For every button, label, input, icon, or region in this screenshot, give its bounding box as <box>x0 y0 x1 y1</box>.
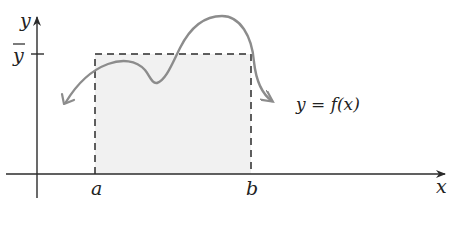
ybar-text: y <box>12 44 24 66</box>
b-label: b <box>246 177 258 199</box>
ybar-label: y <box>12 44 25 66</box>
curve-label: y = f(x) <box>295 94 360 114</box>
average-value-rectangle <box>95 54 251 174</box>
a-label: a <box>91 177 102 199</box>
x-axis-label: x <box>436 175 447 197</box>
y-axis-label: y <box>19 9 31 31</box>
average-value-diagram: y y y = f(x) a b x <box>0 0 469 228</box>
